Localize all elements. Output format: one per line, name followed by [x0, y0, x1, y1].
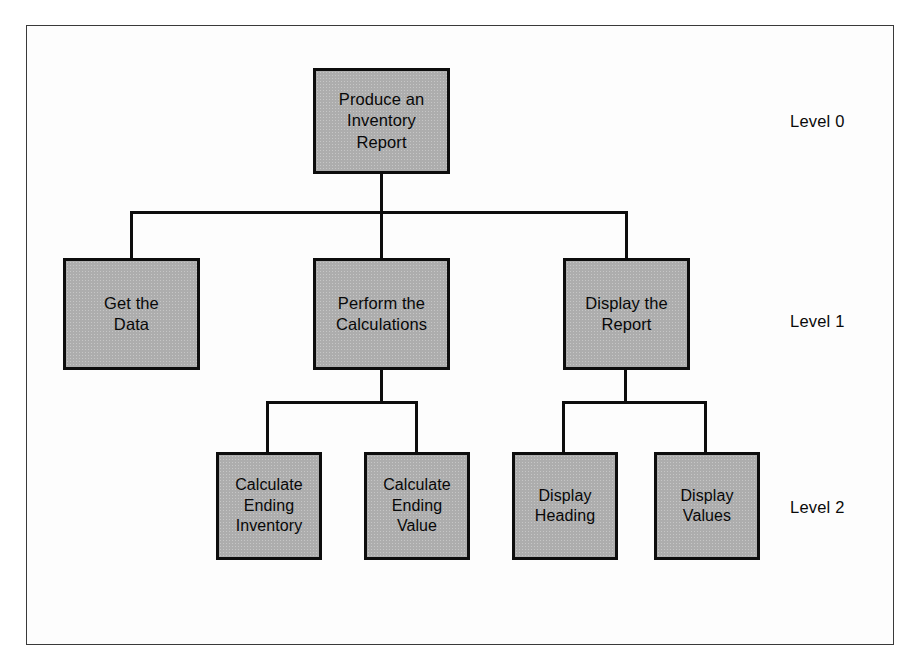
node-display-heading[interactable]: Display Heading: [512, 452, 618, 560]
connector-root-stem: [380, 174, 383, 213]
node-get-the-data[interactable]: Get the Data: [63, 258, 200, 370]
level-label-2: Level 2: [790, 498, 845, 517]
node-display-values[interactable]: Display Values: [654, 452, 760, 560]
connector-level1-bus: [130, 211, 628, 214]
connector-drop-display-report: [625, 211, 628, 260]
level-label-0: Level 0: [790, 112, 845, 131]
connector-perform-stem: [380, 370, 383, 403]
node-calculate-ending-inventory[interactable]: Calculate Ending Inventory: [216, 452, 322, 560]
node-display-the-report[interactable]: Display the Report: [563, 258, 690, 370]
node-produce-inventory-report[interactable]: Produce an Inventory Report: [313, 68, 450, 174]
level-label-1: Level 1: [790, 312, 845, 331]
connector-display-stem: [624, 370, 627, 403]
structure-chart: Produce an Inventory Report Get the Data…: [0, 0, 912, 667]
connector-drop-perform-calculations: [380, 211, 383, 260]
connector-drop-display-heading: [562, 401, 565, 454]
connector-level2-bus-left: [266, 401, 418, 404]
connector-drop-get-data: [130, 211, 133, 260]
connector-drop-calculate-ending-value: [415, 401, 418, 454]
diagram-page: Produce an Inventory Report Get the Data…: [0, 0, 912, 667]
connector-level2-bus-right: [562, 401, 707, 404]
connector-drop-calculate-ending-inventory: [266, 401, 269, 454]
node-calculate-ending-value[interactable]: Calculate Ending Value: [364, 452, 470, 560]
node-perform-the-calculations[interactable]: Perform the Calculations: [313, 258, 450, 370]
connector-drop-display-values: [704, 401, 707, 454]
